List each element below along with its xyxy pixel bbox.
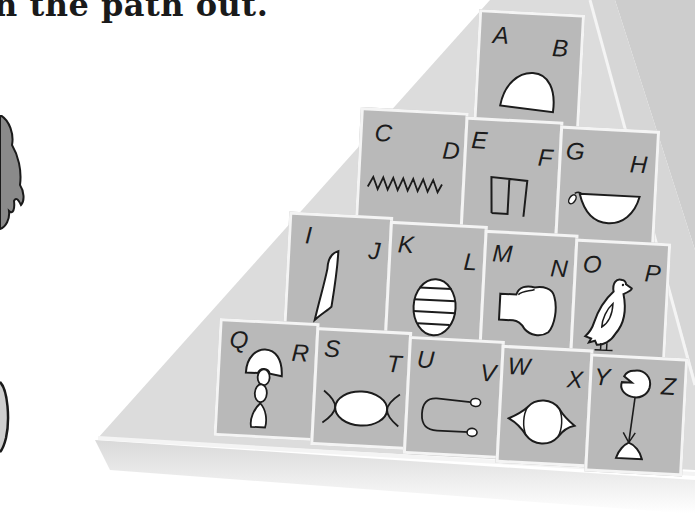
letter-left: K [397, 232, 414, 257]
water-zigzag-icon [365, 170, 446, 198]
letter-left: W [507, 354, 531, 379]
tile-e-f[interactable]: E F [459, 117, 563, 240]
letter-left: U [416, 347, 435, 372]
striped-oval-icon [409, 275, 460, 339]
fist-icon [494, 281, 561, 340]
tile-m-n[interactable]: M N [479, 230, 579, 353]
letter-left: E [471, 128, 488, 153]
letter-right: D [442, 138, 461, 163]
letter-left: I [305, 223, 313, 247]
letter-left: G [565, 139, 585, 164]
bread-loaf-icon [495, 65, 568, 119]
tile-i-j[interactable]: I J [283, 211, 393, 334]
letter-right: V [480, 361, 497, 386]
letter-right: B [552, 36, 569, 61]
tile-k-l[interactable]: K L [384, 221, 488, 344]
letter-left: M [492, 241, 513, 266]
letter-right: X [566, 367, 583, 392]
tile-q-r[interactable]: Q R [214, 318, 320, 441]
tile-s-t[interactable]: S T [310, 327, 412, 450]
eye-shape-icon [505, 396, 577, 448]
letter-left: S [324, 337, 341, 362]
letter-right: P [644, 261, 661, 286]
letter-right: F [537, 145, 553, 170]
pyramid-tiles: A B C D E F G H I J K [0, 0, 695, 514]
letter-right: R [291, 341, 310, 366]
letter-left: Y [594, 365, 611, 390]
lotus-stand-icon [608, 366, 663, 468]
tile-g-h[interactable]: G H [554, 126, 660, 249]
letter-right: L [463, 250, 478, 275]
letter-right: T [386, 352, 402, 377]
tile-u-v[interactable]: U V [403, 336, 505, 459]
letter-right: J [368, 239, 381, 264]
tether-rope-icon [417, 392, 483, 439]
tile-y-z[interactable]: Y Z [584, 353, 688, 476]
reed-leaf-icon [308, 248, 352, 330]
tile-c-d[interactable]: C D [355, 107, 469, 230]
letter-right: H [629, 152, 648, 177]
tile-a-b[interactable]: A B [473, 9, 585, 132]
twisted-flax-icon [239, 346, 287, 432]
quail-chick-icon [582, 272, 642, 355]
letter-right: N [550, 256, 569, 281]
letter-left: A [492, 23, 509, 48]
tile-o-p[interactable]: O P [569, 239, 671, 362]
letter-left: C [374, 121, 393, 146]
letter-right: Z [660, 374, 676, 399]
placenta-icon [320, 384, 402, 432]
tile-w-x[interactable]: W X [496, 345, 594, 468]
basket-handle-icon [564, 187, 646, 231]
house-plan-icon [483, 171, 536, 224]
